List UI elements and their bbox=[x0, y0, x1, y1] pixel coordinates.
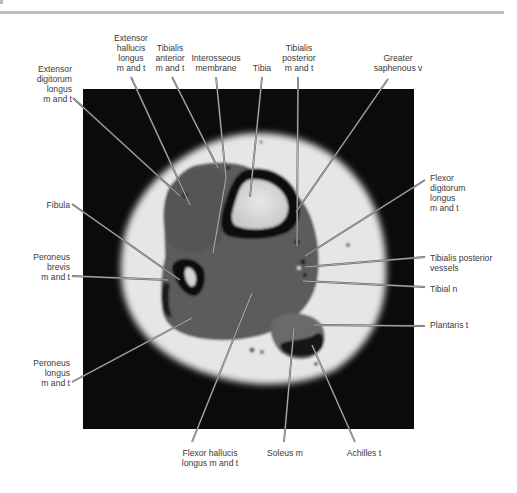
label-tibia: Tibia bbox=[253, 63, 271, 73]
label-extensor-digitorum-longus: Extensor digitorum longus m and t bbox=[37, 64, 72, 104]
label-tibialis-anterior: Tibialis anterior m and t bbox=[155, 43, 184, 73]
label-extensor-hallucis-longus: Extensor hallucis longus m and t bbox=[114, 33, 148, 73]
label-tibialis-posterior: Tibialis posterior m and t bbox=[282, 43, 315, 73]
label-interosseous-membrane: Interosseous membrane bbox=[191, 53, 240, 73]
label-soleus-m: Soleus m bbox=[267, 448, 303, 458]
vessel bbox=[314, 362, 318, 366]
label-flexor-hallucis-longus: Flexor hallucis longus m and t bbox=[182, 448, 238, 468]
label-fibula: Fibula bbox=[47, 200, 70, 210]
vessel bbox=[303, 273, 307, 277]
label-achilles-t: Achilles t bbox=[347, 448, 381, 458]
label-flexor-digitorum-longus: Flexor digitorum longus m and t bbox=[430, 173, 465, 213]
mri-figure bbox=[0, 0, 517, 493]
vessel bbox=[346, 243, 350, 247]
vessel bbox=[226, 166, 230, 170]
label-greater-saphenous-v: Greater saphenous v bbox=[374, 53, 423, 73]
vessel bbox=[260, 141, 263, 144]
label-tibialis-posterior-vessels: Tibialis posterior vessels bbox=[430, 253, 492, 273]
label-peroneus-longus: Peroneus longus m and t bbox=[33, 358, 70, 388]
label-tibial-n: Tibial n bbox=[430, 284, 457, 294]
vessel bbox=[301, 260, 306, 265]
label-peroneus-brevis: Peroneus brevis m and t bbox=[33, 252, 70, 282]
vessel bbox=[250, 348, 255, 353]
vessel bbox=[260, 350, 264, 354]
label-plantaris-t: Plantaris t bbox=[430, 320, 468, 330]
vessel bbox=[297, 266, 301, 270]
